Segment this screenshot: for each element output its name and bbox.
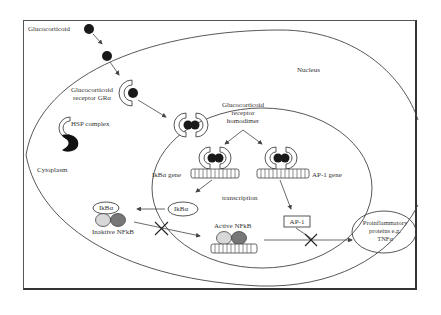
label-homodimer-line1: Glucocorticoid <box>210 101 276 109</box>
nfkb-dna-icon <box>211 244 257 253</box>
label-active-nfkb: Active NFkB <box>214 222 252 230</box>
label-proinflammatory: Proinflammatory proteins e.g. TNFα <box>354 219 416 243</box>
label-ap1-gene: AP-1 gene <box>312 171 342 179</box>
diagram-canvas: Glucocorticoid Glucocorticoid receptor G… <box>0 0 441 315</box>
label-nucleus: Nucleus <box>297 66 320 74</box>
label-transcription: transcription <box>222 194 257 202</box>
receptor-homodimer-icon <box>174 113 208 137</box>
label-glucocorticoid: Glucocorticoid <box>28 25 70 33</box>
label-hsp-complex: HSP complex <box>71 120 109 128</box>
diagram-graphics <box>0 0 441 315</box>
label-homodimer: Glucocorticoid receptor homodimer <box>210 101 276 125</box>
label-proinflammatory-line2: proteins e.g. <box>354 227 416 235</box>
active-nfkb-complex-icon <box>217 232 247 245</box>
label-receptor-line2: receptor GRα <box>60 94 124 102</box>
ikba-dna-icon <box>191 169 239 178</box>
label-ikba-free: IkBα <box>174 205 188 213</box>
label-homodimer-line2: receptor <box>210 109 276 117</box>
label-receptor-gra: Glucocorticoid receptor GRα <box>60 86 124 102</box>
label-ikba-gene: IkBα gene <box>152 171 181 179</box>
ap1-gene-complex-icon <box>265 147 297 169</box>
ikba-gene-complex-icon <box>199 147 231 169</box>
label-receptor-line1: Glucocorticoid <box>60 86 124 94</box>
ligand-membrane-icon <box>102 51 112 61</box>
label-cytoplasm: Cytoplasm <box>37 166 67 174</box>
ap1-dna-icon <box>257 169 309 178</box>
label-proinflammatory-line3: TNFα <box>354 235 416 243</box>
label-homodimer-line3: homodimer <box>210 117 276 125</box>
glucocorticoid-ligand-icon <box>84 24 94 34</box>
label-proinflammatory-line1: Proinflammatory <box>354 219 416 227</box>
label-ap1-box: AP-1 <box>284 218 310 226</box>
label-ikba-bound: IkBα <box>99 204 113 212</box>
label-inactive-nfkb: Inaktive NFkB <box>92 228 134 236</box>
